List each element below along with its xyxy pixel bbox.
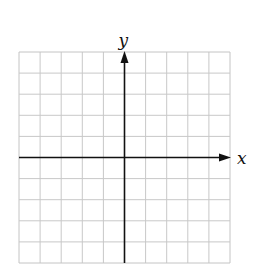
y-axis-label: y [118,30,129,50]
x-axis-arrow-icon [219,154,231,162]
x-axis-label: x [237,148,247,168]
y-axis-arrow-icon [121,51,129,63]
coordinate-plane: x y [0,0,255,276]
axes [19,51,231,263]
